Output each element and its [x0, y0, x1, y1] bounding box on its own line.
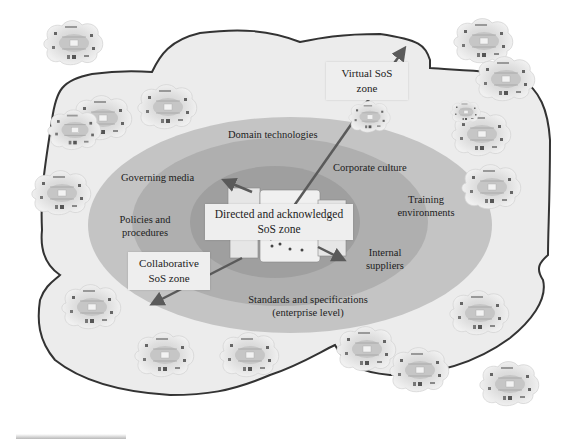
- directed-zone-label-line2: SoS zone: [205, 222, 353, 237]
- label-training-environments: Training environments: [390, 193, 462, 219]
- label-standards-line2: (enterprise level): [228, 306, 388, 319]
- label-training-line1: Training: [390, 193, 462, 206]
- collaborative-zone-label: Collaborative SoS zone: [128, 252, 210, 290]
- label-policies-line2: procedures: [110, 226, 180, 239]
- label-standards-line1: Standards and specifications: [228, 293, 388, 306]
- label-governing-media: Governing media: [121, 171, 194, 184]
- directed-zone-label: Directed and acknowledged SoS zone: [205, 204, 353, 240]
- directed-zone-label-line1: Directed and acknowledged: [205, 207, 353, 222]
- label-internal-line1: Internal: [360, 246, 410, 259]
- label-standards-specifications: Standards and specifications (enterprise…: [228, 293, 388, 319]
- virtual-zone-label-line1: Virtual SoS: [326, 66, 408, 81]
- label-internal-suppliers: Internal suppliers: [360, 246, 410, 272]
- virtual-zone-label-line2: zone: [326, 81, 408, 96]
- label-training-line2: environments: [390, 206, 462, 219]
- virtual-zone-label: Virtual SoS zone: [326, 62, 408, 100]
- label-internal-line2: suppliers: [360, 259, 410, 272]
- collaborative-zone-label-line1: Collaborative: [128, 256, 210, 271]
- label-policies-line1: Policies and: [110, 213, 180, 226]
- sos-zones-diagram: Virtual SoS zone Directed and acknowledg…: [0, 0, 566, 439]
- figure-caption-clipped: [16, 434, 126, 439]
- label-domain-technologies: Domain technologies: [228, 128, 318, 141]
- label-policies-procedures: Policies and procedures: [110, 213, 180, 239]
- label-corporate-culture: Corporate culture: [333, 161, 407, 174]
- collaborative-zone-label-line2: SoS zone: [128, 271, 210, 286]
